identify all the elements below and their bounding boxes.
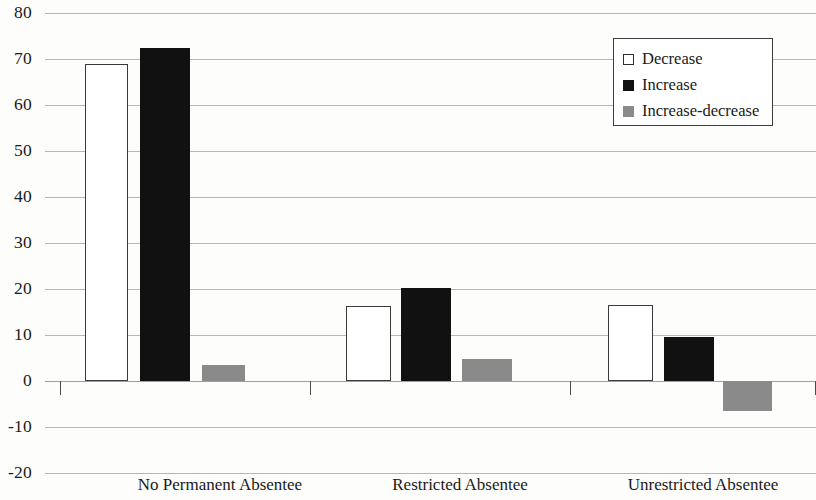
x-axis-tick-2 — [570, 381, 571, 395]
y-axis-tick-label-0: 0 — [0, 372, 32, 390]
legend-swatch-decrease-icon — [623, 54, 634, 65]
y-axis-tick-label-70: 70 — [0, 50, 32, 68]
y-axis-tick-label-60: 60 — [0, 96, 32, 114]
bar-chart: 80706050403020100-10-20 No Permanent Abs… — [0, 0, 816, 500]
bar-increase-group-1 — [401, 288, 451, 381]
legend: Decrease Increase Increase-decrease — [613, 38, 773, 126]
y-axis-tick-label-10: 10 — [0, 326, 32, 344]
bar-increase-decrease-group-1 — [462, 359, 512, 381]
y-axis-tick-label-50: 50 — [0, 142, 32, 160]
x-axis-tick-1 — [310, 381, 311, 395]
bar-decrease-group-0 — [85, 64, 128, 381]
bar-increase-decrease-group-0 — [202, 365, 245, 381]
y-axis-tick-label-20: 20 — [0, 280, 32, 298]
x-axis-label-2: Unrestricted Absentee — [590, 476, 816, 495]
x-axis-label-1: Restricted Absentee — [330, 476, 590, 495]
y-axis-tick-label--20: -20 — [0, 464, 32, 482]
legend-swatch-increase-decrease-icon — [623, 106, 634, 117]
legend-item-decrease: Decrease — [623, 46, 772, 72]
legend-swatch-increase-icon — [623, 80, 634, 91]
legend-item-increase: Increase — [623, 72, 772, 98]
gridline-80 — [45, 13, 816, 14]
legend-item-increase-decrease: Increase-decrease — [623, 98, 772, 124]
y-axis-tick-label-30: 30 — [0, 234, 32, 252]
gridline--20 — [45, 473, 816, 474]
bar-increase-group-0 — [140, 48, 190, 381]
bar-increase-group-2 — [664, 337, 714, 381]
bar-increase-decrease-group-2 — [723, 381, 772, 411]
gridline--10 — [45, 427, 816, 428]
y-axis-tick-label--10: -10 — [0, 418, 32, 436]
bar-decrease-group-1 — [346, 306, 391, 381]
legend-label-decrease: Decrease — [642, 51, 702, 68]
legend-label-increase: Increase — [642, 77, 697, 94]
gridline-0 — [45, 381, 816, 382]
y-axis-tick-label-80: 80 — [0, 4, 32, 22]
legend-label-increase-decrease: Increase-decrease — [642, 103, 759, 120]
x-axis-tick-0 — [60, 381, 61, 395]
y-axis-tick-label-40: 40 — [0, 188, 32, 206]
bar-decrease-group-2 — [608, 305, 653, 381]
